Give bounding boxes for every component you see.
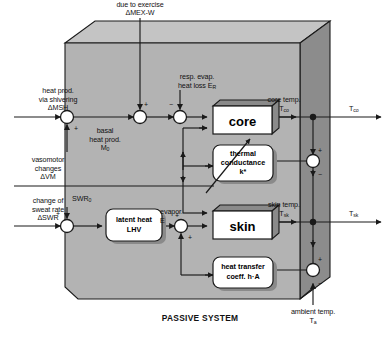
- sign-plus-evapor: +: [188, 234, 192, 241]
- sum-node-conductance-drive: [307, 155, 320, 168]
- label-swr0-sub: 0: [88, 197, 91, 203]
- label-basal-sub: 0: [107, 146, 110, 152]
- sign-plus-sum1: +: [318, 147, 322, 154]
- sign-plus-sweat: +: [56, 210, 60, 217]
- figure-canvas: heat prod. via shivering ΔMSH heat prod.…: [0, 0, 391, 340]
- label-output-tsk: Tsk: [349, 210, 358, 219]
- label-ambient-sub: a: [314, 319, 317, 325]
- label-evapor-line2: E: [160, 216, 165, 225]
- label-core-temp-sub: co: [284, 107, 289, 113]
- label-skin-temp-sub: sk: [284, 212, 289, 218]
- sum-node-resp-evap: [174, 111, 187, 124]
- block-label-heat-transfer-line2: coeff. h·A: [226, 273, 259, 281]
- sign-minus-sum2: −: [318, 280, 322, 287]
- sign-minus-resp-evap: −: [169, 101, 173, 108]
- label-shivering-line3: ΔMSH: [48, 103, 68, 112]
- label-resp-evap2: heat loss ER: [178, 82, 216, 91]
- label-exercise-input3: ΔMEX-W: [126, 9, 155, 18]
- panel-top-face: [65, 21, 330, 43]
- label-swr0-text: SWR: [72, 194, 88, 203]
- label-exercise-line3: ΔMEX-W: [126, 8, 155, 17]
- sign-minus-sum1: −: [318, 171, 322, 178]
- label-core-temp-line1: core temp.: [268, 95, 301, 104]
- panel-3d-box: [65, 21, 330, 299]
- label-skin-temp-line1: skin temp.: [268, 200, 300, 209]
- sum-node-heat-transfer-drive: [307, 264, 320, 277]
- block-label-heat-transfer-line1: heat transfer: [221, 263, 265, 271]
- figure-caption: PASSIVE SYSTEM: [162, 313, 239, 323]
- sum-node-evapor: [175, 220, 188, 233]
- label-skin-temp2: Tsk: [279, 210, 288, 219]
- label-resp-evap-line2: heat loss E: [178, 81, 212, 90]
- label-vasomotor3: ΔVM: [40, 173, 55, 182]
- sign-plus-sum2: +: [318, 256, 322, 263]
- sum-node-sweat: [61, 220, 74, 233]
- block-label-skin: skin: [229, 219, 255, 234]
- sum-node-exercise: [134, 111, 147, 124]
- block-label-core: core: [229, 114, 256, 129]
- label-output-tco: Tco: [349, 105, 359, 114]
- label-skin-temp: skin temp.: [268, 201, 300, 210]
- label-shivering-input3: ΔMSH: [48, 104, 68, 113]
- label-core-temp2: Tco: [279, 105, 289, 114]
- block-label-thermal-conductance-line3: k*: [240, 168, 247, 176]
- label-swr0: SWR0: [72, 195, 91, 204]
- label-vasomotor-line3: ΔVM: [40, 172, 55, 181]
- sign-plus-evapor-in: +: [175, 212, 179, 219]
- label-resp-evap-sub: R: [212, 84, 216, 90]
- block-label-latent-heat-line2: LHV: [127, 226, 141, 234]
- label-output-tsk-sub: sk: [353, 212, 358, 218]
- label-evapor2: E: [160, 217, 165, 226]
- sign-plus-exercise: +: [144, 101, 148, 108]
- label-basal-line3: M: [101, 143, 107, 152]
- label-ambient2: Ta: [309, 317, 316, 326]
- sign-plus-basal: +: [74, 125, 78, 132]
- label-core-temp: core temp.: [268, 96, 301, 105]
- junction-skin-temp: [310, 219, 316, 225]
- label-output-tco-sub: co: [353, 107, 358, 113]
- block-label-latent-heat-line1: latent heat: [116, 216, 152, 224]
- junction-core-temp: [310, 114, 316, 120]
- label-basal3: M0: [101, 144, 110, 153]
